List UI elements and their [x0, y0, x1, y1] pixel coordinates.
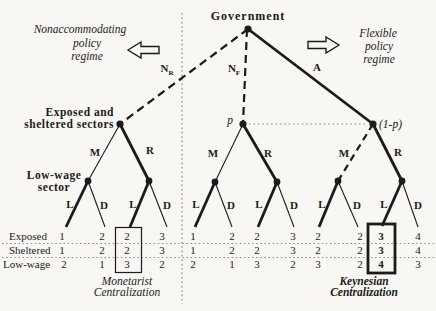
l-label-1: L [66, 199, 73, 210]
branch-a-label: A [313, 62, 321, 73]
payoff-cell: 3 [290, 245, 296, 256]
exposed-sheltered-label: Exposed and sheltered sectors [2, 107, 114, 130]
p-node-label: p [227, 115, 233, 126]
government-label: Government [211, 11, 286, 22]
payoff-cell: 2 [159, 259, 165, 270]
d-label-6: D [414, 200, 422, 211]
l-label-5: L [318, 199, 325, 210]
payoff-cell: 4 [415, 245, 421, 256]
payoff-cell: 2 [99, 231, 105, 242]
payoff-cell: 2 [190, 259, 196, 270]
payoff-cell: 4 [415, 231, 421, 242]
d-label-5: D [353, 200, 361, 211]
branch-nf-line [243, 29, 247, 124]
right-regime-line2: policy [365, 41, 393, 52]
low-wage-node3-dot [212, 179, 219, 186]
payoff-cell: 2 [315, 245, 321, 256]
keynesian-caption: Keynesian Centralization [330, 276, 398, 298]
d-label-2: D [163, 200, 171, 211]
payoff-cell: 2 [99, 245, 105, 256]
game-tree-figure: Government Nonaccommodating policy regim… [0, 0, 436, 311]
one-minus-p-node-label: (1-p) [379, 119, 402, 130]
payoff-cell: 1 [190, 245, 196, 256]
payoff-cell: 2 [357, 231, 363, 242]
left-r-label: R [146, 145, 154, 156]
payoff-cell: 1 [59, 245, 65, 256]
low-wage-node2-dot [146, 178, 153, 185]
right-regime-arrow-icon [308, 37, 339, 53]
low-wage-node1-dot [85, 178, 92, 185]
branch-nf-label: NF [228, 63, 240, 79]
payoff-cell: 3 [159, 245, 165, 256]
payoff-cell: 2 [124, 245, 130, 256]
payoff-cell: 2 [357, 245, 363, 256]
left-regime-arrow-icon [128, 42, 159, 58]
l-label-3: L [192, 199, 199, 210]
payoff-cell: 3 [315, 259, 321, 270]
p-node-dot [239, 120, 246, 127]
row-label-exposed: Exposed [9, 231, 47, 242]
government-node-dot [244, 25, 251, 32]
payoff-cell: 2 [61, 259, 67, 270]
left-regime-line3: regime [71, 51, 103, 62]
payoff-cell: 1 [229, 259, 235, 270]
right-r-label: R [394, 147, 402, 158]
payoff-cell: 2 [124, 231, 130, 242]
branch-nr-label: NR [160, 63, 173, 79]
l-label-2: L [129, 199, 136, 210]
payoff-cell: 3 [124, 259, 130, 270]
payoff-cell: 1 [59, 231, 65, 242]
one-minus-p-node-dot [369, 120, 376, 127]
payoff-cell: 1 [99, 259, 105, 270]
l-label-6: L [380, 199, 387, 210]
right-regime-line3: regime [363, 54, 395, 65]
payoff-cell: 3 [290, 231, 296, 242]
payoff-cell: 2 [254, 245, 260, 256]
payoff-cell: 2 [229, 245, 235, 256]
payoff-cell: 3 [254, 259, 260, 270]
payoff-cell: 3 [378, 245, 384, 256]
l-label-4: L [255, 199, 262, 210]
low-wage-node4-dot [274, 179, 281, 186]
payoff-cell: 2 [315, 231, 321, 242]
mid-m-line [215, 124, 243, 182]
payoff-cell: 4 [378, 259, 384, 270]
row-label-low-wage: Low-wage [3, 259, 50, 270]
exposed-sheltered-node-dot [116, 120, 123, 127]
right-m-label: M [339, 148, 349, 159]
payoff-cell: 3 [159, 231, 165, 242]
payoff-cell: 2 [229, 231, 235, 242]
mid-m-label: M [208, 148, 218, 159]
d-label-1: D [100, 200, 108, 211]
right-regime-line1: Flexible [359, 28, 397, 39]
left-r-line [120, 124, 149, 181]
low-wage-node5-dot [335, 178, 342, 185]
d-label-3: D [227, 200, 235, 211]
row-label-sheltered: Sheltered [9, 245, 51, 256]
low-wage-label: Low-wage sector [27, 170, 81, 193]
monetarist-caption: Monetarist Centralization [94, 276, 160, 298]
payoff-cell: 2 [357, 259, 363, 270]
low-wage-node6-dot [399, 178, 406, 185]
left-regime-line2: policy [73, 38, 101, 49]
payoff-cell: 2 [254, 231, 260, 242]
mid-r-label: R [264, 148, 272, 159]
left-regime-line1: Nonaccommodating [34, 24, 127, 35]
payoff-cell: 3 [378, 231, 384, 242]
payoff-cell: 1 [190, 231, 196, 242]
d-label-4: D [290, 200, 298, 211]
payoff-cell: 3 [415, 259, 421, 270]
payoff-cell: 2 [290, 259, 296, 270]
left-m-label: M [90, 147, 100, 158]
